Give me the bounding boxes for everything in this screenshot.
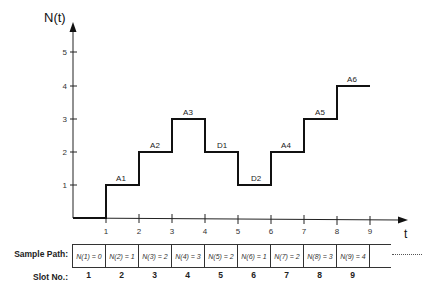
- slot-numbers: 1 2 3 4 5 6 7 8 9: [72, 270, 369, 280]
- sample-path-cell: N(3) = 2: [138, 245, 171, 267]
- y-tick-label: 1: [63, 181, 68, 190]
- sample-path-cell: N(5) = 2: [204, 245, 237, 267]
- event-label: A5: [315, 108, 325, 117]
- x-tick-label: 1: [104, 227, 109, 236]
- slot-number: 9: [336, 270, 369, 280]
- y-axis-label: N(t): [44, 10, 66, 25]
- sample-path-cell: N(2) = 1: [105, 245, 138, 267]
- x-axis: [73, 218, 400, 220]
- sample-path-label: Sample Path:: [0, 249, 68, 259]
- continuation-dots: [392, 254, 422, 255]
- x-tick-label: 4: [203, 227, 208, 236]
- event-label: A3: [183, 108, 193, 117]
- slot-number: 5: [204, 270, 237, 280]
- event-label: A2: [150, 141, 160, 150]
- slot-number: 2: [105, 270, 138, 280]
- slot-number: 1: [72, 270, 105, 280]
- x-axis-label: t: [404, 227, 408, 241]
- sample-path-cell: N(4) = 3: [171, 245, 204, 267]
- x-tick-label: 9: [368, 227, 373, 236]
- slot-no-label: Slot No.:: [0, 272, 68, 282]
- x-axis-arrow-icon: [398, 217, 408, 224]
- x-tick-label: 2: [137, 227, 142, 236]
- slot-number: 3: [138, 270, 171, 280]
- event-label: D1: [217, 141, 228, 150]
- y-tick-label: 2: [63, 148, 68, 157]
- x-tick-label: 8: [335, 227, 340, 236]
- y-tick-label: 5: [63, 48, 68, 57]
- sample-path-cell: N(9) = 4: [336, 245, 369, 267]
- event-label: A1: [116, 174, 126, 183]
- sample-path-cell: N(6) = 1: [237, 245, 270, 267]
- sample-path-cell: N(1) = 0: [72, 245, 105, 267]
- x-tick-label: 3: [170, 227, 175, 236]
- sample-path-table: N(1) = 0 N(2) = 1 N(3) = 2 N(4) = 3 N(5)…: [72, 244, 391, 268]
- x-tick-label: 6: [269, 227, 274, 236]
- event-label: A4: [281, 141, 291, 150]
- sample-path-cell: N(8) = 3: [303, 245, 336, 267]
- slot-number: 8: [303, 270, 336, 280]
- y-axis-arrow-icon: [70, 22, 77, 32]
- slot-number: 4: [171, 270, 204, 280]
- step-line: [73, 86, 370, 218]
- x-tick-label: 7: [302, 227, 307, 236]
- event-label: A6: [347, 75, 357, 84]
- y-tick-label: 4: [63, 82, 68, 91]
- sample-path-cell: N(7) = 2: [270, 245, 303, 267]
- y-tick-label: 3: [63, 115, 68, 124]
- slot-number: 6: [237, 270, 270, 280]
- x-tick-label: 5: [236, 227, 241, 236]
- slot-number: 7: [270, 270, 303, 280]
- event-label: D2: [251, 174, 262, 183]
- sample-path-empty-cell: [369, 245, 391, 267]
